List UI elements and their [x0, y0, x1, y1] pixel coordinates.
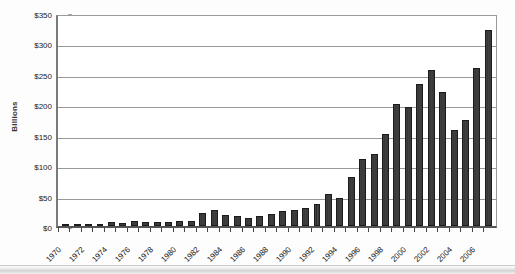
bar	[154, 222, 161, 226]
bar	[211, 210, 218, 226]
x-axis-tick-mark	[196, 228, 197, 232]
x-axis-tick-mark	[242, 228, 243, 232]
x-axis-tick-mark	[219, 228, 220, 232]
bar	[188, 221, 195, 226]
plot-area	[56, 15, 497, 228]
bar-slot	[311, 16, 322, 226]
x-axis-tick-mark	[483, 228, 484, 232]
x-axis-tick-mark	[127, 228, 128, 232]
x-axis-tick-mark	[58, 228, 59, 232]
x-axis-tick-mark	[150, 228, 151, 232]
y-axis-tick-label: $150	[16, 132, 52, 141]
y-axis-tick-label: $100	[16, 163, 52, 172]
bar-slot	[368, 16, 379, 226]
bar-slot	[471, 16, 482, 226]
bar-slot	[94, 16, 105, 226]
bar-slot	[323, 16, 334, 226]
bar-chart: Billions $0$50$100$150$200$250$300$350 1…	[0, 0, 515, 274]
bar-slot	[380, 16, 391, 226]
x-axis-tick-mark	[276, 228, 277, 232]
y-axis-tick-label: $0	[16, 224, 52, 233]
bar	[234, 216, 241, 226]
bar	[359, 159, 366, 226]
bar-slot	[71, 16, 82, 226]
bar	[108, 222, 115, 226]
bar	[439, 92, 446, 226]
bar-slot	[414, 16, 425, 226]
x-axis-tick-mark	[345, 228, 346, 232]
x-axis-tick-mark	[357, 228, 358, 232]
x-axis-tick-mark	[173, 228, 174, 232]
bar-slot	[357, 16, 368, 226]
x-axis-tick-mark	[380, 228, 381, 232]
bar-slot	[483, 16, 494, 226]
bar	[302, 208, 309, 226]
bar-slot	[334, 16, 345, 226]
bar-slot	[106, 16, 117, 226]
x-axis-tick-mark	[138, 228, 139, 232]
bar-slot	[83, 16, 94, 226]
bar	[291, 210, 298, 226]
bar-slot	[60, 16, 71, 226]
x-axis-tick-label: 1970	[44, 245, 63, 264]
bar-slot	[129, 16, 140, 226]
bar	[62, 224, 69, 226]
x-axis-tick-mark	[472, 228, 473, 232]
bar-slot	[391, 16, 402, 226]
bar	[416, 84, 423, 226]
bar-slot	[243, 16, 254, 226]
y-axis-tick-label: $200	[16, 102, 52, 111]
bar-slot	[163, 16, 174, 226]
bar-series	[58, 16, 496, 226]
bar	[451, 130, 458, 226]
bar	[74, 224, 81, 226]
bar-slot	[288, 16, 299, 226]
x-axis-tick-mark	[207, 228, 208, 232]
x-axis-tick-mark	[414, 228, 415, 232]
x-axis-tick-mark	[449, 228, 450, 232]
bar-slot	[277, 16, 288, 226]
x-axis-tick-mark	[265, 228, 266, 232]
bar-slot	[151, 16, 162, 226]
bar-slot	[208, 16, 219, 226]
y-axis-tick-label: $50	[16, 193, 52, 202]
x-axis-tick-mark	[81, 228, 82, 232]
bar	[473, 68, 480, 226]
x-axis-tick-mark	[92, 228, 93, 232]
x-axis-tick-mark	[334, 228, 335, 232]
bar	[256, 216, 263, 226]
y-axis-tick-label: $250	[16, 71, 52, 80]
bar	[428, 70, 435, 226]
bar	[336, 198, 343, 226]
bar	[222, 215, 229, 226]
page-bottom-edge	[0, 265, 515, 274]
y-axis-tick-labels: $0$50$100$150$200$250$300$350	[16, 0, 52, 232]
bar-slot	[403, 16, 414, 226]
bar-slot	[300, 16, 311, 226]
y-axis-tick-label: $300	[16, 41, 52, 50]
x-axis-tick-mark	[460, 228, 461, 232]
bar	[279, 211, 286, 226]
bar-slot	[346, 16, 357, 226]
bar	[119, 223, 126, 226]
x-axis-tick-mark	[391, 228, 392, 232]
x-axis-tick-mark	[69, 228, 70, 232]
bar	[199, 213, 206, 226]
bar	[142, 222, 149, 226]
bar-slot	[448, 16, 459, 226]
x-axis-tick-mark	[115, 228, 116, 232]
bar-slot	[460, 16, 471, 226]
x-axis-tick-mark	[253, 228, 254, 232]
bar	[97, 224, 104, 226]
bar	[325, 194, 332, 226]
bar	[405, 107, 412, 226]
x-axis-tick-mark	[184, 228, 185, 232]
bar	[393, 104, 400, 226]
bar	[348, 177, 355, 226]
x-axis-tick-mark	[437, 228, 438, 232]
x-axis-tick-mark	[230, 228, 231, 232]
bar	[314, 204, 321, 226]
x-axis-tick-mark	[161, 228, 162, 232]
bar-slot	[437, 16, 448, 226]
bar-slot	[174, 16, 185, 226]
